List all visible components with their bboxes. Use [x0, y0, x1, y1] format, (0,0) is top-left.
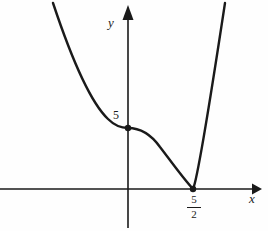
y-intercept-tick-label: 5	[113, 109, 119, 121]
x-root-tick-label: 5 2	[186, 194, 202, 221]
curve-path	[53, 3, 225, 189]
point-x-root	[190, 186, 196, 192]
graph-figure: y x 5 5 2	[0, 0, 268, 231]
x-axis-label: x	[249, 192, 255, 205]
point-y-intercept	[125, 125, 131, 131]
plot-canvas	[0, 0, 268, 231]
y-axis-arrowhead-icon	[123, 5, 134, 20]
y-axis-label: y	[108, 16, 114, 29]
fraction-denominator: 2	[186, 209, 202, 221]
fraction-numerator: 5	[186, 194, 202, 206]
